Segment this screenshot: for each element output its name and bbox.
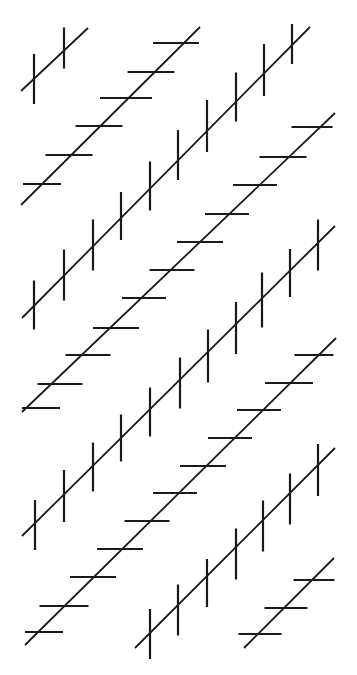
illusion-figure-container: Zöllner illusion [0, 0, 357, 675]
zollner-illusion-figure [0, 0, 357, 675]
figure-background [0, 0, 357, 675]
